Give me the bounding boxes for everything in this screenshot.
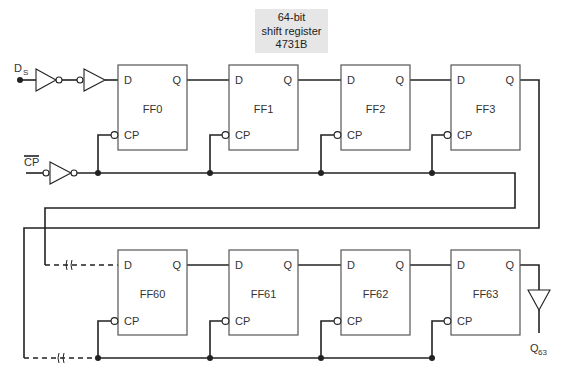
pin-d-label: D bbox=[457, 74, 465, 86]
flipflop-ff0: DQFF0CP bbox=[118, 65, 187, 150]
clock-junction-dot bbox=[95, 355, 101, 361]
flipflop-ff61: DQFF61CP bbox=[229, 250, 298, 335]
data-input-terminal bbox=[17, 77, 23, 83]
flipflop-ff1: DQFF1CP bbox=[229, 65, 298, 150]
flipflop-name: FF63 bbox=[473, 288, 499, 300]
pin-d-label: D bbox=[347, 74, 355, 86]
clock-junction-dot bbox=[429, 170, 435, 176]
clock-inversion-bubble bbox=[222, 318, 229, 325]
clock-input-label: CP bbox=[24, 156, 39, 168]
pin-d-label: D bbox=[347, 259, 355, 271]
flipflop-name: FF3 bbox=[476, 103, 496, 115]
clock-tap-wire bbox=[98, 135, 114, 173]
clock-tap-wire bbox=[321, 321, 337, 358]
clock-inversion-bubble bbox=[222, 132, 229, 139]
clock-junction-dot bbox=[207, 170, 213, 176]
flipflop-ff63: DQFF63CP bbox=[451, 250, 520, 335]
flipflop-ff2: DQFF2CP bbox=[341, 65, 410, 150]
pin-cp-label: CP bbox=[347, 129, 362, 141]
flipflop-name: FF2 bbox=[366, 103, 386, 115]
flipflop-name: FF1 bbox=[254, 103, 274, 115]
clock-junction-dot bbox=[318, 170, 324, 176]
pin-d-label: D bbox=[235, 74, 243, 86]
clock-tap-wire bbox=[210, 135, 225, 173]
output-wire bbox=[520, 265, 539, 290]
data-input-label: D bbox=[14, 62, 22, 74]
clock-inversion-bubble bbox=[444, 318, 451, 325]
clock-inversion-bubble bbox=[111, 318, 118, 325]
pin-q-label: Q bbox=[395, 259, 404, 271]
flipflop-name: FF60 bbox=[140, 288, 166, 300]
clock-inverter-input-bubble bbox=[43, 170, 49, 176]
flipflop-ff60: DQFF60CP bbox=[118, 250, 187, 335]
pin-cp-label: CP bbox=[457, 129, 472, 141]
pin-q-label: Q bbox=[172, 259, 181, 271]
shift-register-diagram: DQFF0CPDQFF1CPDQFF2CPDQFF3CPDQFF60CPDQFF… bbox=[0, 0, 566, 377]
pin-cp-label: CP bbox=[347, 315, 362, 327]
flipflop-ff62: DQFF62CP bbox=[341, 250, 410, 335]
clock-junction-dot bbox=[207, 355, 213, 361]
pin-cp-label: CP bbox=[235, 315, 250, 327]
inverter-2 bbox=[84, 69, 105, 91]
pin-q-label: Q bbox=[505, 259, 514, 271]
pin-q-label: Q bbox=[283, 259, 292, 271]
flipflop-name: FF0 bbox=[143, 103, 163, 115]
flipflop-name: FF61 bbox=[251, 288, 277, 300]
clock-inversion-bubble bbox=[334, 318, 341, 325]
output-buffer bbox=[528, 290, 550, 310]
pin-d-label: D bbox=[124, 259, 132, 271]
pin-q-label: Q bbox=[505, 74, 514, 86]
clock-inverter bbox=[50, 162, 71, 184]
clock-tap-wire bbox=[321, 135, 337, 173]
pin-d-label: D bbox=[235, 259, 243, 271]
flipflop-ff3: DQFF3CP bbox=[451, 65, 520, 150]
clock-inversion-bubble bbox=[111, 132, 118, 139]
clock-inversion-bubble bbox=[444, 132, 451, 139]
flipflop-name: FF62 bbox=[363, 288, 389, 300]
pin-q-label: Q bbox=[283, 74, 292, 86]
clock-junction-dot bbox=[429, 355, 435, 361]
pin-cp-label: CP bbox=[124, 315, 139, 327]
pin-d-label: D bbox=[124, 74, 132, 86]
clock-junction-dot bbox=[318, 355, 324, 361]
pin-q-label: Q bbox=[395, 74, 404, 86]
clock-tap-wire bbox=[432, 135, 447, 173]
buffer-2-input-bubble bbox=[77, 77, 83, 83]
pin-d-label: D bbox=[457, 259, 465, 271]
clock-tap-wire bbox=[98, 321, 114, 358]
pin-q-label: Q bbox=[172, 74, 181, 86]
output-subscript: 63 bbox=[538, 348, 547, 357]
clock-inverter-output-bubble bbox=[71, 170, 77, 176]
clock-tap-wire bbox=[432, 321, 447, 358]
clock-inversion-bubble bbox=[334, 132, 341, 139]
inverter-1 bbox=[36, 69, 56, 91]
inverter-1-bubble bbox=[56, 77, 62, 83]
clock-junction-dot bbox=[95, 170, 101, 176]
pin-cp-label: CP bbox=[235, 129, 250, 141]
pin-cp-label: CP bbox=[124, 129, 139, 141]
data-input-subscript: S bbox=[23, 68, 28, 77]
pin-cp-label: CP bbox=[457, 315, 472, 327]
clock-tap-wire bbox=[210, 321, 225, 358]
